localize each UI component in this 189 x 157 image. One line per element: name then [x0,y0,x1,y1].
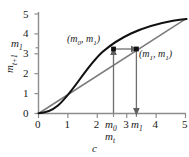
x-tick-0: 0 [35,119,41,130]
x-tick-1: 1 [64,119,70,130]
identity-line [39,18,187,113]
annotation-m1-m1: (m1, m1) [139,49,172,62]
annotation-m0-m1: (m0, m1) [67,34,100,47]
axis-lines [39,12,187,114]
y-axis-title: mt+1 [3,44,18,84]
y-tick-5: 5 [23,9,29,20]
x-tick-5: 5 [182,119,188,130]
figure-cobweb-diagram: 5 4 3 2 1 0 m1 mt+1 0 1 2 3 4 5 m0 m1 mt… [0,0,189,157]
x-tick-4: 4 [153,119,159,130]
y-tick-0: 0 [23,108,29,119]
x-tick-2: 2 [94,119,100,130]
y-tick-1: 1 [23,88,29,99]
x-tick-m1-label: m1 [131,119,143,133]
x-tick-3: 3 [123,119,129,130]
y-tick-2: 2 [23,68,29,79]
y-tick-4: 4 [23,28,29,39]
y-tick-3: 3 [23,48,29,59]
figure-caption: c [0,142,189,154]
